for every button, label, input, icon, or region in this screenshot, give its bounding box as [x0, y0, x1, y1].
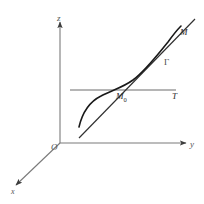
point-m0-base: M — [116, 91, 124, 101]
figure-canvas: z y x O M M0 T Γ — [0, 0, 204, 204]
geometry-diagram-svg — [0, 0, 204, 204]
curve-gamma-label: Γ — [164, 58, 169, 67]
x-axis-label: x — [11, 188, 15, 196]
curve-gamma-group — [79, 26, 181, 127]
axes-group — [16, 22, 186, 185]
secant-line-group — [79, 19, 195, 138]
origin-label: O — [51, 143, 58, 152]
point-m0-subscript: 0 — [124, 96, 127, 103]
point-m-label: M — [180, 28, 188, 37]
curve-gamma-path — [79, 26, 181, 127]
secant-line — [79, 19, 195, 138]
z-axis-label: z — [57, 14, 61, 23]
y-axis-label: y — [190, 140, 194, 149]
secant-t-label: T — [172, 92, 177, 101]
point-m0-label: M0 — [116, 92, 127, 103]
